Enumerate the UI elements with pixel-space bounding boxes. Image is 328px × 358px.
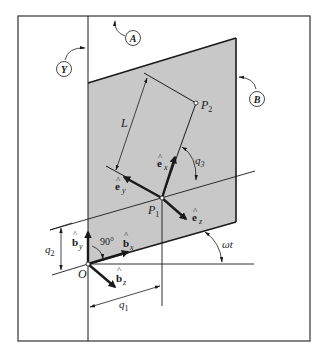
- leader-b: [239, 77, 256, 89]
- svg-text:x: x: [129, 243, 134, 252]
- omega-t-arc: [205, 232, 222, 262]
- label-90deg: 90°: [100, 236, 114, 247]
- svg-text:y: y: [78, 242, 83, 251]
- svg-text:y: y: [121, 186, 126, 195]
- leader-a: [115, 21, 125, 36]
- svg-text:x: x: [163, 163, 168, 172]
- label-frame-y: Y: [61, 64, 68, 75]
- point-p1: [160, 196, 164, 200]
- label-l: L: [120, 116, 128, 130]
- vector-bz: [88, 264, 115, 287]
- label-omega-t: ωt: [222, 238, 234, 250]
- mechanism-diagram: L q3 e ^ x e ^ y e ^ z P1 P2 b ^ y b ^ x…: [0, 0, 328, 358]
- label-by: b ^ y: [72, 229, 83, 251]
- leader-y: [65, 48, 85, 60]
- label-frame-a: A: [129, 33, 137, 44]
- point-origin: [86, 262, 90, 266]
- svg-text:z: z: [122, 278, 127, 287]
- label-q2: q2: [45, 243, 55, 258]
- label-frame-b: B: [253, 94, 261, 105]
- label-q1: q1: [119, 298, 129, 313]
- point-p2: [194, 101, 198, 105]
- label-origin: O: [78, 267, 87, 281]
- label-bz: b ^ z: [116, 265, 127, 287]
